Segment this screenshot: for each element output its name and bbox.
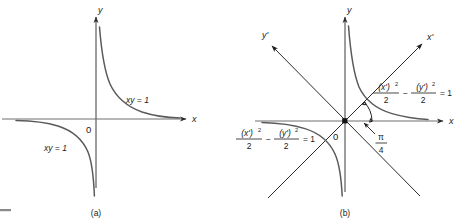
panel-a-curve-label-upper: xy = 1 (125, 95, 149, 105)
panel-a-origin-label: 0 (86, 124, 91, 135)
panel-b-angle-denominator: 4 (379, 145, 384, 155)
panel-b-eq-left-den1: 2 (247, 141, 252, 151)
panel-a: y x 0 xy = 1 xy = 1 (a) (2, 5, 197, 218)
panel-b-xprime-axis-label: x' (426, 32, 434, 42)
panel-a-caption: (a) (91, 208, 102, 218)
panel-b-origin-dot (342, 118, 347, 123)
scan-edge-mark (0, 209, 11, 211)
panel-b-eq-left-den2: 2 (284, 141, 289, 151)
panel-a-x-axis-label: x (191, 114, 197, 124)
panel-b-eq-left-minus: − (266, 134, 271, 144)
panel-b-eq-right-sup2: 2 (432, 81, 435, 87)
figure-svg: y x 0 xy = 1 xy = 1 (a) (0, 0, 457, 224)
panel-b-eq-right-den1: 2 (384, 95, 389, 105)
panel-b-eq-left-num1: (x') (241, 128, 253, 138)
panel-b-origin-label: 0 (333, 131, 338, 142)
panel-b-x-axis-label: x (448, 116, 454, 126)
panel-a-curve-branch-3 (16, 121, 94, 196)
panel-b-equation-left: (x') 2 2 − (y') 2 2 = 1 (236, 127, 315, 151)
panel-a-curve-label-lower: xy = 1 (43, 143, 67, 153)
panel-b-yprime-axis-label: y' (261, 30, 269, 40)
panel-b-angle-numerator: π (378, 132, 384, 142)
figure-root: y x 0 xy = 1 xy = 1 (a) (0, 0, 457, 224)
panel-b-eq-left-sup2: 2 (295, 127, 298, 133)
panel-b-eq-right-sup1: 2 (395, 81, 398, 87)
panel-b: y x y' x' 0 π 4 (x') 2 2 − (y') (236, 5, 454, 218)
panel-b-y-axis-label: y (346, 5, 352, 15)
panel-b-eq-right-num1: (x') (378, 82, 390, 92)
panel-a-y-axis-label: y (97, 5, 103, 15)
panel-b-angle-label: π 4 (376, 132, 388, 155)
panel-b-eq-right-den2: 2 (421, 95, 426, 105)
panel-b-eq-right-minus: − (403, 88, 408, 98)
panel-b-eq-left-sup1: 2 (258, 127, 261, 133)
panel-b-eq-right-equals: = 1 (440, 88, 452, 98)
panel-b-angle-leader (364, 123, 375, 134)
panel-b-eq-left-num2: (y') (279, 128, 291, 138)
panel-b-caption: (b) (340, 208, 351, 218)
panel-b-eq-left-equals: = 1 (303, 134, 315, 144)
panel-b-eq-right-num2: (y') (416, 82, 428, 92)
panel-b-equation-right: (x') 2 2 − (y') 2 2 = 1 (373, 81, 452, 105)
